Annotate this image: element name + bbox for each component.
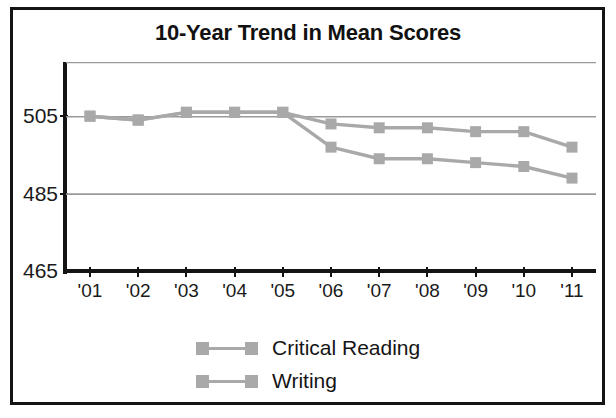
x-tick-label: '04	[222, 281, 247, 300]
chart-legend: Critical ReadingWriting	[196, 331, 516, 397]
data-point-marker	[85, 111, 96, 122]
x-tick-label: '01	[78, 281, 103, 300]
legend-label: Critical Reading	[272, 337, 420, 358]
data-point-marker	[422, 122, 433, 133]
legend-swatch-icon	[196, 339, 258, 357]
data-point-marker	[518, 126, 529, 137]
data-point-marker	[326, 142, 337, 153]
x-tick-mark	[185, 267, 187, 277]
x-axis-tick-labels: '01'02'03'04'05'06'07'08'09'10'11	[66, 279, 596, 307]
legend-item[interactable]: Writing	[196, 364, 516, 397]
data-point-marker	[374, 122, 385, 133]
data-point-marker	[181, 107, 192, 118]
data-point-marker	[229, 107, 240, 118]
series-2	[85, 107, 578, 184]
data-point-marker	[422, 153, 433, 164]
plot-area	[66, 62, 596, 271]
x-tick-mark	[234, 267, 236, 277]
x-tick-mark	[571, 267, 573, 277]
data-point-marker	[470, 157, 481, 168]
chart-title: 10-Year Trend in Mean Scores	[0, 20, 616, 46]
y-tick-label: 505	[2, 105, 58, 126]
y-axis-tick-labels: 465485505	[0, 0, 58, 418]
data-point-marker	[326, 118, 337, 129]
legend-marker-icon	[196, 375, 209, 388]
x-tick-mark	[523, 267, 525, 277]
x-tick-mark	[475, 267, 477, 277]
data-point-marker	[133, 115, 144, 126]
legend-marker-icon	[196, 342, 209, 355]
x-tick-mark	[426, 267, 428, 277]
x-tick-mark	[378, 267, 380, 277]
data-point-marker	[470, 126, 481, 137]
x-tick-label: '07	[367, 281, 392, 300]
x-tick-mark	[282, 267, 284, 277]
x-tick-label: '09	[463, 281, 488, 300]
x-tick-label: '10	[511, 281, 536, 300]
x-tick-mark	[330, 267, 332, 277]
legend-swatch-icon	[196, 372, 258, 390]
data-point-marker	[567, 142, 578, 153]
x-tick-label: '03	[174, 281, 199, 300]
y-tick-label: 465	[2, 260, 58, 281]
x-tick-mark	[137, 267, 139, 277]
x-tick-label: '02	[126, 281, 151, 300]
series-plot	[66, 62, 596, 271]
chart-figure: 10-Year Trend in Mean Scores 465485505 '…	[0, 0, 616, 418]
data-point-marker	[277, 107, 288, 118]
legend-marker-icon	[245, 342, 258, 355]
data-point-marker	[374, 153, 385, 164]
legend-label: Writing	[272, 370, 337, 391]
x-tick-mark	[89, 267, 91, 277]
x-tick-label: '08	[415, 281, 440, 300]
legend-item[interactable]: Critical Reading	[196, 331, 516, 364]
legend-marker-icon	[245, 375, 258, 388]
data-point-marker	[567, 173, 578, 184]
x-tick-label: '06	[319, 281, 344, 300]
data-point-marker	[518, 161, 529, 172]
x-tick-label: '05	[270, 281, 295, 300]
y-tick-label: 485	[2, 183, 58, 204]
x-tick-label: '11	[560, 281, 583, 300]
